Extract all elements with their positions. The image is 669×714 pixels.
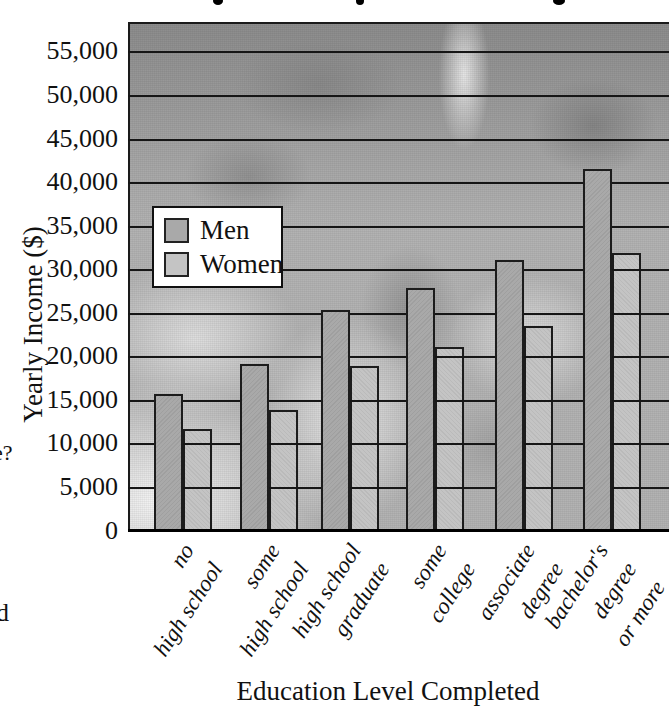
cropped-margin-text: d <box>0 598 9 628</box>
y-tick-label: 55,000 <box>18 38 118 64</box>
x-axis-line <box>128 529 669 532</box>
gridline <box>128 51 669 53</box>
bar-women-3 <box>435 347 464 532</box>
bar-men-1 <box>240 364 269 531</box>
legend-item-women: Women <box>164 251 283 278</box>
bar-men-4 <box>495 260 524 532</box>
y-tick-label: 5,000 <box>18 474 118 500</box>
legend-label-women: Women <box>200 251 283 278</box>
y-tick-label: 10,000 <box>18 430 118 456</box>
bar-men-3 <box>406 288 435 532</box>
cropped-title-fragment <box>356 0 364 5</box>
gridline <box>128 139 669 141</box>
bar-men-2 <box>321 310 350 531</box>
y-tick-label: 45,000 <box>18 126 118 152</box>
x-tick-label-text: bachelor's degree or more <box>537 537 669 673</box>
women-swatch-icon <box>164 252 189 277</box>
y-tick-label: 35,000 <box>18 213 118 239</box>
y-tick-label: 30,000 <box>18 256 118 282</box>
y-tick-label: 40,000 <box>18 169 118 195</box>
x-axis-title: Education Level Completed <box>128 676 648 707</box>
cropped-margin-text: e? <box>0 440 13 466</box>
x-tick-label-text: high school graduate <box>284 537 399 664</box>
y-tick-label: 0 <box>18 518 118 544</box>
x-tick-label-text: no high school <box>117 537 232 664</box>
legend-box: Men Women <box>152 206 283 288</box>
cropped-title-fragment <box>553 0 565 5</box>
x-tick-label-text: some college <box>391 537 484 630</box>
men-swatch-icon <box>164 218 189 243</box>
legend-item-men: Men <box>164 217 250 244</box>
bar-women-1 <box>269 410 298 532</box>
bar-women-2 <box>350 366 379 531</box>
gridline <box>128 95 669 97</box>
y-tick-label: 15,000 <box>18 387 118 413</box>
y-tick-label: 50,000 <box>18 82 118 108</box>
cropped-title-fragment <box>213 0 223 5</box>
y-tick-label: 25,000 <box>18 300 118 326</box>
bar-men-5 <box>583 169 612 531</box>
bar-men-0 <box>154 394 183 532</box>
bar-women-5 <box>612 253 641 532</box>
legend-label-men: Men <box>200 217 250 244</box>
y-tick-label: 20,000 <box>18 343 118 369</box>
